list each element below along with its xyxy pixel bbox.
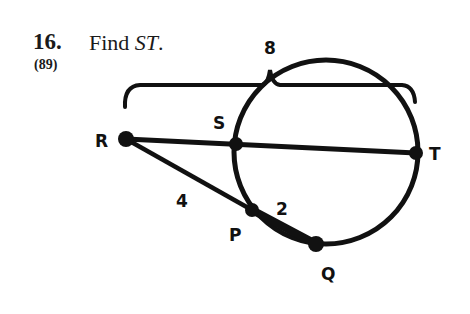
- point-S: [229, 137, 243, 151]
- brace-RT: [125, 70, 415, 107]
- measure-brace: 8: [264, 38, 276, 58]
- point-Q: [308, 236, 324, 252]
- point-R: [118, 131, 134, 147]
- geometry-diagram: R S T P Q 8 4 2: [0, 0, 470, 314]
- measure-PQ: 2: [276, 199, 288, 219]
- measure-RP: 4: [176, 191, 188, 211]
- label-T: T: [429, 144, 441, 164]
- label-Q: Q: [321, 264, 335, 284]
- label-S: S: [213, 113, 225, 133]
- label-P: P: [229, 225, 241, 245]
- point-P: [245, 203, 259, 217]
- secant-RT: [126, 139, 416, 153]
- label-R: R: [95, 131, 108, 151]
- point-T: [409, 146, 423, 160]
